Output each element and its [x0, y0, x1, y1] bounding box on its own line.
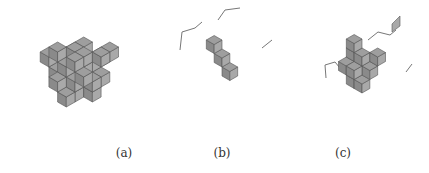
caption-b: (b): [213, 146, 230, 160]
cube-cluster-c: [300, 0, 429, 130]
panel-c: [300, 0, 429, 130]
chain-line: [218, 8, 240, 20]
chain-line: [262, 40, 272, 48]
cube-cluster-a: [0, 0, 150, 130]
cube-cluster-b: [170, 0, 280, 130]
chain-line: [325, 62, 340, 78]
chain-line: [406, 64, 412, 72]
panel-b: [170, 0, 280, 130]
caption-a: (a): [116, 146, 133, 160]
caption-c: (c): [335, 146, 351, 160]
chain-line: [180, 22, 202, 50]
panel-a: [0, 0, 150, 130]
